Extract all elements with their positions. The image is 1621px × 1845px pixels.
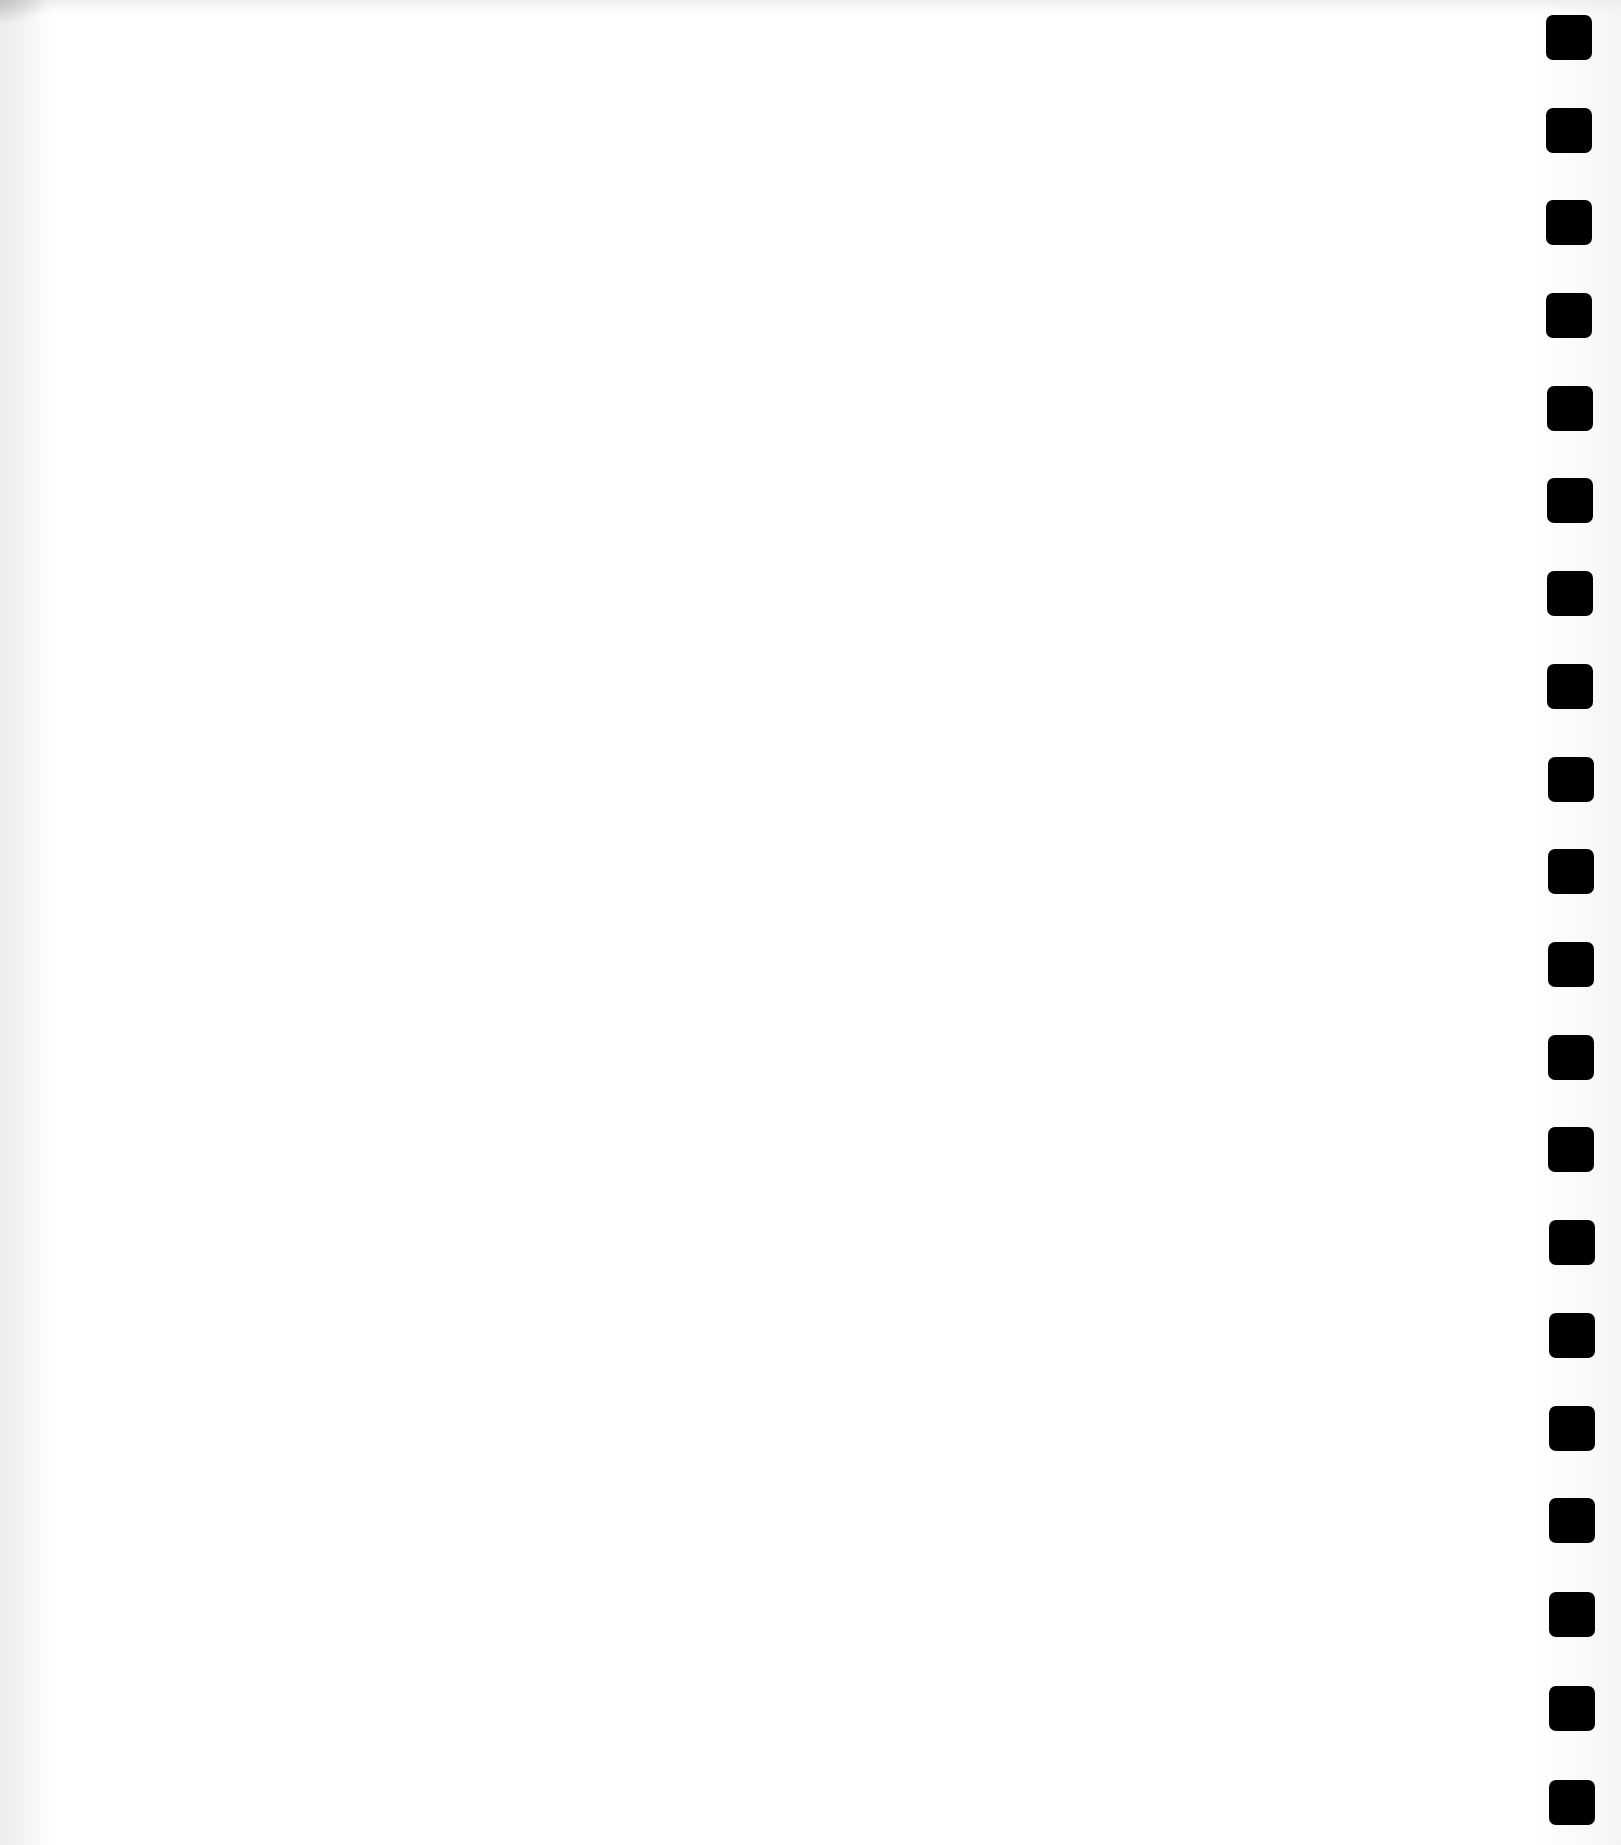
punch-hole-icon bbox=[1548, 1127, 1594, 1172]
punch-hole-icon bbox=[1549, 1686, 1595, 1731]
top-edge-shadow bbox=[0, 0, 1621, 14]
punch-hole-icon bbox=[1548, 849, 1594, 894]
punch-hole-icon bbox=[1547, 478, 1593, 523]
punch-hole-icon bbox=[1549, 1498, 1595, 1543]
punch-hole-icon bbox=[1546, 15, 1592, 60]
blank-document-page bbox=[0, 0, 1621, 1845]
punch-hole-icon bbox=[1546, 293, 1592, 338]
punch-hole-icon bbox=[1549, 1592, 1595, 1637]
punch-hole-icon bbox=[1546, 108, 1592, 153]
punch-hole-icon bbox=[1549, 1313, 1595, 1358]
punch-hole-icon bbox=[1548, 942, 1594, 987]
corner-smudge bbox=[0, 0, 50, 25]
punch-hole-icon bbox=[1547, 571, 1593, 616]
punch-hole-icon bbox=[1547, 386, 1593, 431]
punch-hole-icon bbox=[1548, 1035, 1594, 1080]
punch-hole-icon bbox=[1549, 1406, 1595, 1451]
punch-hole-icon bbox=[1549, 1780, 1595, 1825]
binding-strip bbox=[1531, 0, 1621, 1845]
punch-hole-icon bbox=[1546, 200, 1592, 245]
punch-hole-icon bbox=[1547, 664, 1593, 709]
punch-hole-icon bbox=[1549, 1220, 1595, 1265]
punch-hole-icon bbox=[1548, 757, 1594, 802]
left-edge-shadow bbox=[0, 0, 55, 1845]
